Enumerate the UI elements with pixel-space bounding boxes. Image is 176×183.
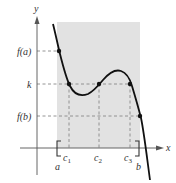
x-axis-arrow-icon	[156, 146, 164, 151]
b-label: b	[136, 161, 141, 172]
point-fa	[57, 49, 61, 53]
a-label: a	[55, 161, 60, 172]
fb-label: f(b)	[17, 111, 32, 123]
ivt-diagram: y x f(a) k f(b) c1 c2 c3 a b	[0, 0, 176, 183]
point-c2	[97, 82, 101, 86]
fa-label: f(a)	[17, 46, 32, 58]
y-axis-arrow-icon	[35, 16, 40, 24]
point-c3	[128, 82, 132, 86]
k-label: k	[27, 79, 32, 90]
c1-label: c1	[63, 152, 71, 165]
point-c1	[67, 82, 71, 86]
c2-label: c2	[94, 152, 102, 165]
c3-label: c3	[124, 152, 132, 165]
x-axis-label: x	[165, 142, 171, 153]
point-fb	[138, 114, 142, 118]
y-axis-label: y	[33, 3, 39, 14]
